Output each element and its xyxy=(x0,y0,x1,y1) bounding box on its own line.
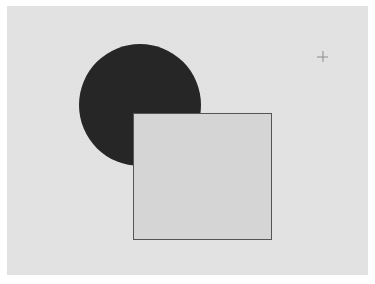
crosshair-vertical-bar xyxy=(322,51,323,62)
crosshair-pointer-label: Crosshair pointer xyxy=(316,50,317,51)
shape-circle-label: Dark filled circle xyxy=(78,43,79,44)
crosshair-pointer-icon: Crosshair pointer xyxy=(317,51,328,62)
shapes-canvas[interactable]: Dark filled circle Light gray outlined s… xyxy=(7,6,368,275)
app-root: Dark filled circle Light gray outlined s… xyxy=(0,0,375,284)
shape-square[interactable]: Light gray outlined square xyxy=(133,113,272,240)
crosshair-horizontal-bar xyxy=(317,56,328,57)
shape-square-label: Light gray outlined square xyxy=(133,113,134,114)
